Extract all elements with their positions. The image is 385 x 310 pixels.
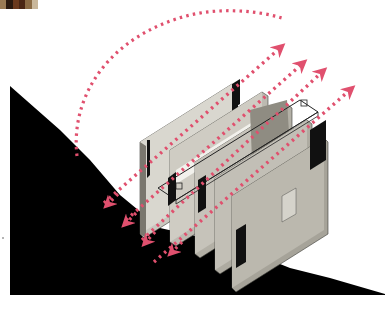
edge-dot [2, 237, 4, 239]
diagram-canvas [0, 0, 385, 310]
diagram-svg [0, 0, 385, 310]
